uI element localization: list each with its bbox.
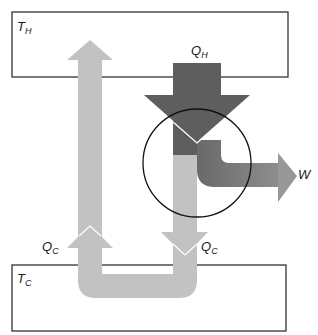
work-flow — [197, 140, 297, 202]
heat-in-label: QH — [191, 43, 208, 60]
cold-reservoir-label: TC — [17, 271, 32, 288]
up-arrow-head-icon — [67, 40, 113, 60]
work-arrow-head-icon — [278, 153, 297, 202]
heat-engine-diagram: TH TC QH QC QC W — [0, 0, 318, 335]
heat-out-right-label: QC — [201, 239, 218, 256]
hot-reservoir-label: TH — [17, 19, 32, 36]
work-label: W — [298, 167, 312, 182]
up-arrow-lower-icon — [67, 225, 113, 248]
hot-reservoir-box — [12, 12, 288, 77]
heat-out-left-label: QC — [42, 239, 59, 256]
